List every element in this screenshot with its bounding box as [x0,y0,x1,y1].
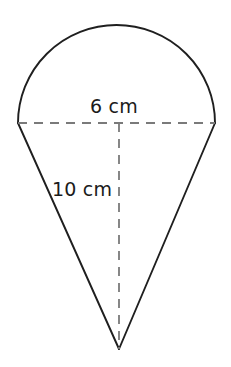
cone-right-edge [119,123,215,349]
slant-height-label: 10 cm [52,180,112,199]
geometry-figure [0,0,231,367]
diameter-label: 6 cm [90,97,138,116]
cone-left-edge [18,123,119,349]
